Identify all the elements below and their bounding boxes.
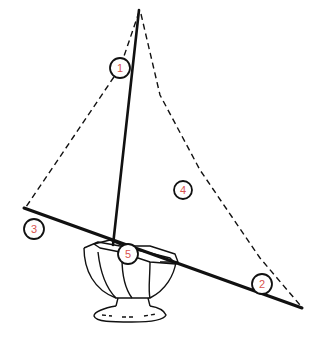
cup-foot-dash — [102, 314, 156, 317]
callout-label-4: 4 — [180, 184, 186, 196]
callout-label-5: 5 — [125, 248, 131, 260]
callout-2: 2 — [252, 274, 272, 294]
mast — [113, 10, 139, 245]
cup-facet-3 — [149, 262, 150, 298]
sail-outline — [26, 12, 300, 305]
callout-label-2: 2 — [259, 278, 265, 290]
sail-diagram: 1 2 3 4 5 — [0, 0, 326, 342]
cup-stem — [116, 298, 150, 306]
callout-5: 5 — [118, 244, 138, 264]
callout-label-1: 1 — [117, 62, 123, 74]
callout-4: 4 — [174, 181, 192, 199]
callout-3: 3 — [24, 219, 44, 239]
cup-foot — [94, 306, 166, 322]
callout-label-3: 3 — [31, 223, 37, 235]
sail-luff-left — [26, 12, 139, 207]
callout-1: 1 — [110, 58, 130, 78]
cup-facet-1 — [98, 252, 116, 298]
